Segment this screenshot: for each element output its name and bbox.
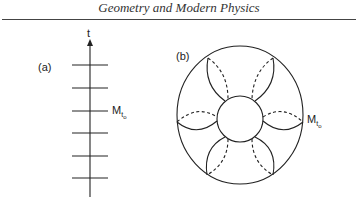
panel-a <box>72 39 108 197</box>
arrow-head-icon <box>87 39 93 46</box>
slice-label-a-subsub: o <box>123 114 127 120</box>
slice-label-a: Mto <box>112 104 127 120</box>
slice-label-b: Mto <box>307 113 322 129</box>
petal-upper-left-dashed <box>208 58 228 99</box>
inner-circle <box>217 96 263 142</box>
panel-b-label: (b) <box>176 50 189 62</box>
slice-label-b-main: M <box>307 113 316 125</box>
panel-a-label: (a) <box>38 61 51 73</box>
petal-right-solid <box>263 121 303 130</box>
petal-right-dashed <box>263 112 303 122</box>
petal-upper-right-dashed <box>252 58 273 99</box>
petal-lower-left-dashed <box>207 139 228 175</box>
time-axis-label: t <box>87 27 90 39</box>
petal-left-solid <box>177 121 217 130</box>
petal-left-dashed <box>177 112 217 122</box>
outer-circle <box>177 46 303 184</box>
petal-lower-right-dashed <box>252 139 273 175</box>
slice-label-b-subsub: o <box>318 123 322 129</box>
petal-upper-right-solid <box>255 58 274 101</box>
slice-label-a-main: M <box>112 104 121 116</box>
figure: (a) t Mto (b) Mto <box>0 0 358 202</box>
panel-b <box>177 46 303 184</box>
petal-upper-left-solid <box>207 58 225 101</box>
